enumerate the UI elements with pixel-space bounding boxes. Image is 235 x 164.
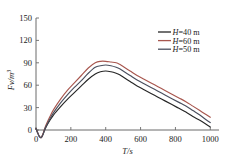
y-tick-label: 120 <box>19 35 32 45</box>
legend-label: H=50 m <box>172 45 201 54</box>
series-line <box>36 61 210 138</box>
y-tick-label: 0 <box>28 125 32 135</box>
y-tick-label: 30 <box>24 103 33 113</box>
series-lines <box>36 61 210 138</box>
x-tick-label: 400 <box>99 134 112 144</box>
y-tick-label: 90 <box>24 58 33 68</box>
y-axis-tick-labels: 0306090120150 <box>19 13 32 135</box>
line-chart: 0306090120150 02004006008001000 T/s Fv/m… <box>0 0 235 164</box>
chart-figure: 0306090120150 02004006008001000 T/s Fv/m… <box>0 0 235 164</box>
y-tick-label: 60 <box>24 80 33 90</box>
x-tick-label: 800 <box>169 134 182 144</box>
x-tick-label: 200 <box>64 134 77 144</box>
x-tick-label: 0 <box>34 134 38 144</box>
y-axis-title: Fv/m3 <box>6 70 16 91</box>
chart-legend: H=40 mH=60 mH=50 m <box>158 28 200 54</box>
y-axis-title-text: Fv/m3 <box>6 70 16 91</box>
x-axis-title: T/s <box>122 146 133 156</box>
series-line <box>36 65 210 138</box>
x-axis-tick-labels: 02004006008001000 <box>34 134 219 144</box>
x-tick-label: 1000 <box>202 134 219 144</box>
x-tick-label: 600 <box>134 134 147 144</box>
series-line <box>36 71 210 138</box>
y-tick-label: 150 <box>19 13 32 23</box>
